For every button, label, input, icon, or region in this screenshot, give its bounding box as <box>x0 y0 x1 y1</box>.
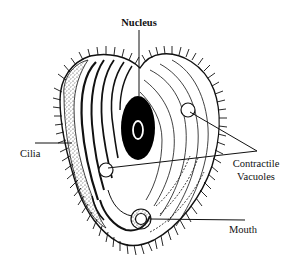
vacuole-left <box>99 163 113 177</box>
label-contractile: Contractile <box>233 158 280 169</box>
label-vacuoles: Vacuoles <box>237 171 275 182</box>
ciliate-diagram: Nucleus Cilia Contractile Vacuoles Mouth <box>0 0 291 262</box>
label-nucleus: Nucleus <box>121 17 157 28</box>
nucleus <box>121 96 155 160</box>
label-mouth: Mouth <box>229 224 258 235</box>
mouth <box>131 209 151 229</box>
vacuole-right <box>181 103 195 117</box>
label-cilia: Cilia <box>20 148 41 159</box>
mouth-leader <box>150 219 245 220</box>
